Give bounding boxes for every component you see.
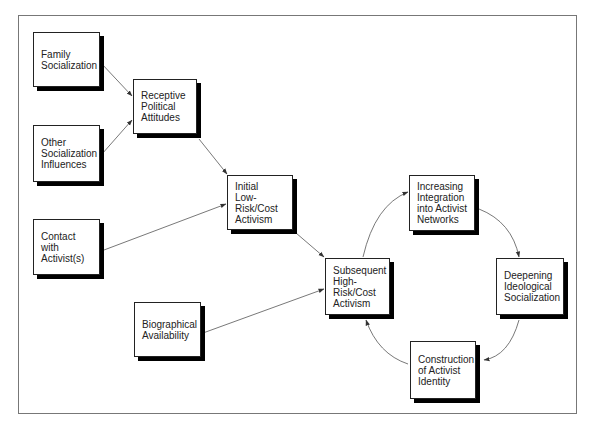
node-label-line: Availability — [142, 330, 200, 341]
node-label-line: with — [41, 242, 99, 253]
node-integration: IncreasingIntegrationinto ActivistNetwor… — [409, 175, 475, 231]
node-label-line: Attitudes — [141, 112, 196, 123]
node-deepening: DeepeningIdeologicalSocialization — [496, 258, 564, 315]
edge-deepening-to-construction — [484, 320, 519, 360]
node-label-line: Activist(s) — [41, 253, 99, 264]
node-label-line: Deepening — [504, 270, 563, 281]
edge-biographical-to-subsequent — [203, 289, 324, 333]
node-other: OtherSocializationInfluences — [33, 125, 100, 182]
node-label-line: Construction — [418, 354, 475, 365]
node-label-line: Family — [41, 49, 99, 60]
node-label-line: Increasing — [417, 181, 474, 192]
node-initial: InitialLow-Risk/CostActivism — [227, 175, 293, 230]
node-label-line: Identity — [418, 376, 475, 387]
edge-integration-to-deepening — [479, 209, 519, 257]
node-label-line: Receptive — [141, 90, 196, 101]
node-label-line: High- — [333, 276, 389, 287]
node-label-line: Other — [41, 137, 99, 148]
node-label-line: Networks — [417, 214, 474, 225]
node-label-line: Risk/Cost — [333, 287, 389, 298]
node-receptive: ReceptivePoliticalAttitudes — [133, 79, 197, 134]
node-biographical: BiographicalAvailability — [134, 302, 201, 357]
edge-other-to-receptive — [102, 120, 132, 154]
node-subsequent: SubsequentHigh-Risk/CostActivism — [325, 258, 390, 315]
edge-initial-to-subsequent — [296, 233, 324, 257]
node-label-line: Low- — [235, 192, 292, 203]
edge-subsequent-to-integration — [363, 192, 408, 257]
edge-contact-to-initial — [104, 204, 226, 250]
edge-receptive-to-initial — [199, 139, 227, 174]
node-label-line: into Activist — [417, 203, 474, 214]
node-label-line: Ideological — [504, 281, 563, 292]
node-family: FamilySocialization — [33, 32, 100, 87]
node-label-line: Risk/Cost — [235, 203, 292, 214]
node-label-line: Political — [141, 101, 196, 112]
node-label-line: Socialization — [41, 148, 99, 159]
node-label-line: Activism — [235, 214, 292, 225]
node-label-line: Integration — [417, 192, 474, 203]
node-label-line: Activism — [333, 298, 389, 309]
node-contact: ContactwithActivist(s) — [33, 219, 100, 275]
node-construction: Constructionof ActivistIdentity — [410, 341, 476, 399]
node-label-line: of Activist — [418, 365, 475, 376]
node-label-line: Socialization — [41, 60, 99, 71]
node-label-line: Socialization — [504, 292, 563, 303]
node-label-line: Biographical — [142, 319, 200, 330]
node-label-line: Contact — [41, 231, 99, 242]
node-label-line: Subsequent — [333, 265, 389, 276]
edge-construction-to-subsequent — [366, 320, 408, 364]
node-label-line: Influences — [41, 159, 99, 170]
node-label-line: Initial — [235, 181, 292, 192]
edge-family-to-receptive — [101, 63, 132, 96]
